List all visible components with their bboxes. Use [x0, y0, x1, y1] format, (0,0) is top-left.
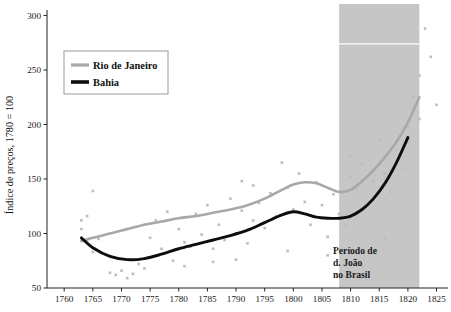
x-axis-tick-label: 1765 — [84, 294, 103, 304]
chart-container: 50100150200250300 1760176517701775178017… — [0, 0, 451, 312]
scatter-point — [246, 242, 249, 245]
x-axis-tick-label: 1825 — [427, 294, 446, 304]
scatter-point — [240, 209, 243, 212]
scatter-point — [132, 273, 135, 276]
scatter-point — [86, 215, 89, 218]
scatter-point — [92, 190, 95, 193]
scatter-point — [309, 223, 312, 226]
scatter-point — [137, 263, 140, 266]
scatter-point — [109, 271, 112, 274]
scatter-point — [263, 227, 266, 230]
scatter-point — [97, 238, 100, 241]
annotation-line-2: d. João — [333, 257, 363, 268]
x-axis-tick-label: 1805 — [313, 294, 332, 304]
x-axis-tick-label: 1795 — [255, 294, 274, 304]
x-axis-tick-label: 1770 — [112, 294, 131, 304]
scatter-point — [120, 269, 123, 272]
scatter-point — [143, 267, 146, 270]
scatter-point — [240, 180, 243, 183]
scatter-point — [252, 184, 255, 187]
scatter-point — [252, 219, 255, 222]
scatter-point — [344, 223, 347, 226]
scatter-point — [212, 247, 215, 250]
scatter-point — [424, 27, 427, 30]
scatter-point — [418, 74, 421, 77]
y-axis-tick-label: 150 — [27, 174, 41, 184]
scatter-point — [372, 180, 375, 183]
legend-label-rio-de-janeiro: Rio de Janeiro — [93, 60, 157, 71]
y-axis-tick-label: 250 — [27, 65, 41, 75]
annotation-line-3: no Brasil — [333, 269, 370, 280]
y-axis-title: Índice de preços, 1780 = 100 — [4, 96, 15, 214]
scatter-point — [338, 213, 341, 216]
scatter-point — [378, 138, 381, 141]
scatter-point — [160, 247, 163, 250]
scatter-point — [200, 233, 203, 236]
x-axis-tick-label: 1760 — [55, 294, 74, 304]
scatter-point — [281, 161, 284, 164]
scatter-point — [349, 176, 352, 179]
scatter-point — [298, 172, 301, 175]
scatter-point — [172, 259, 175, 262]
legend-label-bahia: Bahia — [93, 77, 120, 88]
scatter-point — [389, 191, 392, 194]
x-axis-tick-label: 1800 — [284, 294, 303, 304]
scatter-point — [326, 254, 329, 257]
x-axis-tick-label: 1785 — [198, 294, 217, 304]
x-axis-tick-label: 1820 — [399, 294, 418, 304]
scatter-point — [332, 193, 335, 196]
scatter-point — [126, 277, 129, 280]
scatter-point — [149, 237, 152, 240]
scatter-point — [430, 56, 433, 59]
y-axis-tick-label: 100 — [27, 229, 41, 239]
x-axis-tick-label: 1810 — [341, 294, 360, 304]
scatter-point — [384, 237, 387, 240]
scatter-point — [435, 104, 438, 107]
scatter-point — [349, 155, 352, 158]
scatter-point — [166, 210, 169, 213]
price-index-chart: 50100150200250300 1760176517701775178017… — [0, 0, 451, 312]
scatter-point — [177, 228, 180, 231]
x-axis-tick-label: 1775 — [141, 294, 160, 304]
legend: Rio de Janeiro Bahia — [64, 51, 168, 94]
scatter-point — [235, 258, 238, 261]
scatter-point — [183, 265, 186, 268]
scatter-point — [384, 172, 387, 175]
y-axis-tick-label: 300 — [27, 11, 41, 21]
annotation-line-1: Período de — [333, 245, 378, 256]
scatter-point — [92, 251, 95, 254]
y-axis-tick-label: 200 — [27, 120, 41, 130]
scatter-point — [206, 204, 209, 207]
y-axis-ticks: 50100150200250300 — [27, 11, 47, 294]
scatter-point — [229, 197, 232, 200]
x-axis-tick-label: 1790 — [227, 294, 246, 304]
scatter-point — [361, 164, 364, 167]
scatter-point — [321, 204, 324, 207]
x-axis-tick-label: 1815 — [370, 294, 389, 304]
scatter-point — [303, 201, 306, 204]
scatter-point — [218, 223, 221, 226]
scatter-point — [80, 219, 83, 222]
scatter-point — [395, 149, 398, 152]
scatter-point — [326, 235, 329, 238]
scatter-point — [223, 239, 226, 242]
scatter-point — [412, 96, 415, 99]
scatter-point — [80, 228, 83, 231]
scatter-point — [114, 274, 117, 277]
scatter-point — [401, 167, 404, 170]
scatter-point — [183, 241, 186, 244]
y-axis-tick-label: 50 — [32, 283, 42, 293]
x-axis-tick-label: 1780 — [170, 294, 189, 304]
scatter-point — [418, 118, 421, 121]
x-axis-ticks: 1760176517701775178017851790179518001805… — [55, 288, 446, 304]
scatter-point — [286, 250, 289, 253]
scatter-point — [212, 261, 215, 264]
